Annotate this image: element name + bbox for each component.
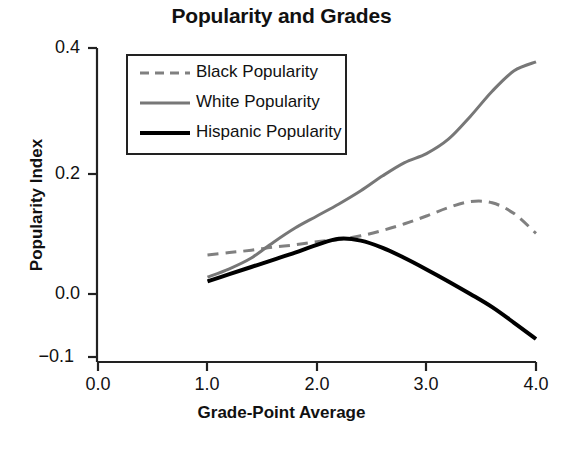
legend-label-black-popularity: Black Popularity [196,62,318,82]
x-axis-label: Grade-Point Average [0,403,563,423]
legend-label-hispanic-popularity: Hispanic Popularity [196,122,342,142]
x-tick-label-4: 4.0 [506,374,563,395]
legend-label-white-popularity: White Popularity [196,92,320,112]
x-tick-label-1: 1.0 [177,374,237,395]
series-line-black-popularity [208,201,537,255]
y-axis-label: Popularity Index [27,105,47,305]
x-tick-label-2: 2.0 [287,374,347,395]
y-axis-ticks [88,48,97,357]
x-axis-ticks [98,362,536,371]
y-tick-label-3: −0.1 [20,346,74,367]
y-tick-label-0: 0.4 [26,37,80,58]
x-tick-label-3: 3.0 [396,374,456,395]
chart-figure: Popularity and Grades 0.4 0.2 0.0 −0.1 [0,0,563,454]
x-tick-label-0: 0.0 [68,374,128,395]
